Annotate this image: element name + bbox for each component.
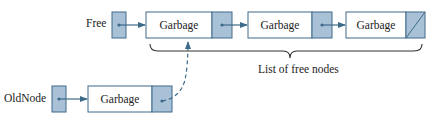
free-node-3: Garbage [346, 12, 425, 38]
node-data-text: Garbage [261, 19, 300, 32]
node-data-text: Garbage [101, 93, 140, 106]
oldnode-pointer-box [52, 86, 87, 112]
free-pointer-box [112, 12, 145, 38]
node-data-text: Garbage [357, 19, 396, 32]
oldnode-node: Garbage [88, 42, 188, 112]
diagram-canvas: Garbage Garbage Garbage [0, 0, 429, 120]
free-node-2: Garbage [248, 12, 345, 38]
free-node-1: Garbage [146, 12, 247, 38]
node-data-text: Garbage [160, 19, 199, 32]
free-list-diagram: Free OldNode List of free nodes Garbage … [0, 0, 429, 120]
brace-icon [150, 44, 422, 58]
